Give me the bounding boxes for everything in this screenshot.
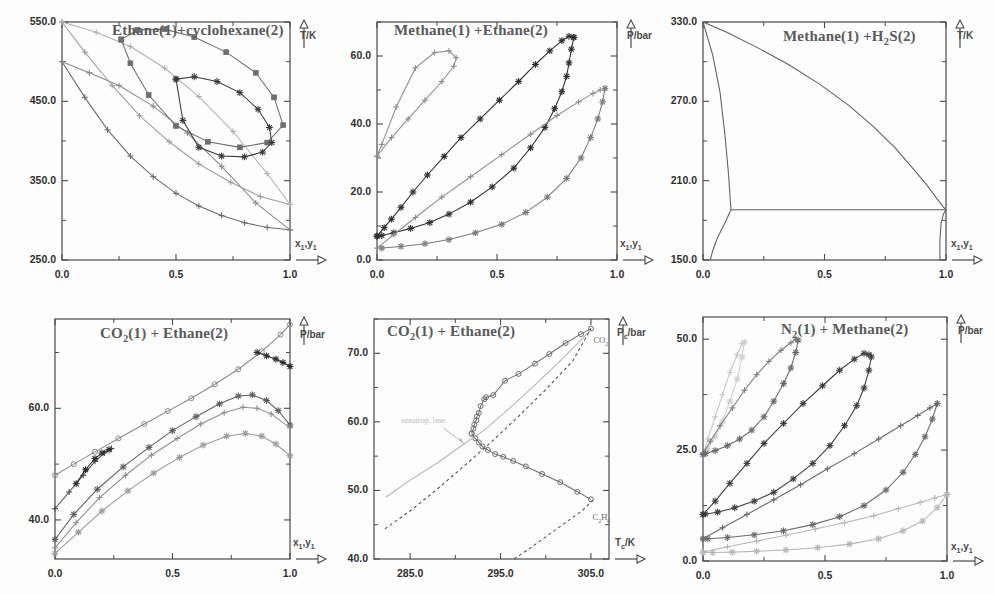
chart-panel-6: N2(1) + Methane(2)P/barx1,y10.025.050.00…: [663, 297, 995, 594]
series-path: [386, 330, 591, 497]
y-tick-label: 350.0: [4, 174, 56, 186]
co2-point-label: CO2: [593, 335, 608, 347]
series-path: [377, 90, 600, 248]
x-tick-label: 0.5: [469, 268, 525, 280]
x-axis-label: x1,y1: [293, 537, 315, 550]
chart-panel-2: Methane(1) +Ethane(2)P/barx1,y10.020.040…: [332, 0, 664, 297]
y-tick-label: 60.0: [316, 415, 368, 427]
y-tick-label: 450.0: [4, 94, 56, 106]
x-axis-label: Tc/K: [615, 537, 635, 550]
series-path: [55, 433, 290, 553]
panel-title: Ethane(1)+cyclohexane(2): [112, 22, 284, 39]
x-axis-label: x1,y1: [951, 238, 973, 251]
y-axis-label: T/K: [957, 30, 973, 41]
plot-area-2: [332, 0, 664, 297]
y-axis-label: P/bar: [300, 329, 325, 340]
series-path: [703, 494, 947, 552]
series-path: [377, 51, 456, 156]
y-tick-label: 40.0: [319, 117, 371, 129]
y-tick-label: 40.0: [0, 513, 49, 525]
series-path: [703, 357, 871, 514]
y-tick-label: 40.0: [316, 552, 368, 564]
y-tick-label: 150.0: [645, 253, 697, 265]
x-tick-label: 0.0: [34, 268, 90, 280]
series-path: [703, 22, 731, 210]
ethane-point-label: C2H6: [593, 512, 611, 524]
series-path: [121, 29, 283, 147]
y-axis-label: P/bar: [627, 30, 652, 41]
series-path: [55, 325, 290, 476]
y-tick-label: 0.0: [645, 554, 697, 566]
y-tick-label: 50.0: [645, 332, 697, 344]
x-tick-label: 295.0: [473, 567, 529, 579]
y-tick-label: 250.0: [4, 253, 56, 265]
panel-title: Methane(1) +Ethane(2): [394, 22, 548, 39]
x-axis-label: x1,y1: [620, 238, 642, 251]
x-tick-label: 0.0: [349, 268, 405, 280]
x-tick-label: 0.5: [797, 268, 853, 280]
series-path: [940, 210, 946, 260]
y-tick-label: 330.0: [645, 15, 697, 27]
x-axis-label: x1,y1: [951, 541, 973, 554]
x-tick-label: 0.5: [148, 268, 204, 280]
x-tick-label: 0.0: [675, 569, 731, 581]
figure-container: Ethane(1)+cyclohexane(2)T/Kx1,y1250.0350…: [0, 0, 995, 594]
series-path: [703, 22, 946, 210]
panel-title: CO2(1) + Ethane(2): [387, 323, 515, 342]
series-path: [472, 329, 591, 434]
x-tick-label: 0.0: [27, 567, 83, 579]
x-tick-label: 1.0: [262, 268, 318, 280]
x-tick-label: 0.5: [797, 569, 853, 581]
x-tick-label: 1.0: [262, 567, 318, 579]
x-tick-label: 0.5: [145, 567, 201, 579]
x-tick-label: 1.0: [918, 268, 974, 280]
series-path: [703, 494, 947, 552]
y-tick-label: 210.0: [645, 174, 697, 186]
panel-title: CO2(1) + Ethane(2): [100, 325, 228, 344]
series-path: [382, 88, 605, 248]
series-path: [377, 37, 574, 236]
series-path: [55, 448, 111, 508]
y-tick-label: 270.0: [645, 94, 697, 106]
x-tick-label: 305.0: [563, 567, 619, 579]
y-axis-label: T/K: [300, 30, 316, 41]
x-tick-label: 285.0: [382, 567, 438, 579]
y-tick-label: 550.0: [4, 15, 56, 27]
series-path: [377, 36, 574, 236]
series-path: [385, 329, 591, 529]
chart-panel-5: CO2(1) + Ethane(2)Pc/barTc/K40.050.060.0…: [332, 297, 664, 594]
series-path: [703, 340, 798, 454]
y-tick-label: 0.0: [319, 253, 371, 265]
chart-panel-1: Ethane(1)+cyclohexane(2)T/Kx1,y1250.0350…: [0, 0, 332, 297]
panel-title: Methane(1) +H2S(2): [783, 28, 916, 47]
chart-panel-4: CO2(1) + Ethane(2)P/barx1,y140.060.00.00…: [0, 297, 332, 594]
y-tick-label: 50.0: [316, 483, 368, 495]
y-tick-label: 60.0: [319, 49, 371, 61]
x-axis-label: x1,y1: [295, 238, 317, 251]
y-axis-label: Pc/bar: [617, 327, 646, 340]
y-axis-label: P/bar: [958, 325, 983, 336]
azeotrope-annotation: azeotrop. line: [401, 416, 445, 425]
series-path: [514, 500, 593, 559]
y-tick-label: 70.0: [316, 346, 368, 358]
y-tick-label: 60.0: [0, 401, 49, 413]
series-path: [710, 210, 731, 260]
x-tick-label: 1.0: [919, 569, 975, 581]
panel-title: N2(1) + Methane(2): [781, 321, 908, 340]
series-path: [472, 434, 591, 500]
x-tick-label: 1.0: [589, 268, 645, 280]
y-tick-label: 20.0: [319, 185, 371, 197]
series-path: [703, 344, 742, 455]
chart-panel-3: Methane(1) +H2S(2)T/Kx1,y1150.0210.0270.…: [663, 0, 995, 297]
plot-area-6: [663, 297, 995, 594]
y-tick-label: 25.0: [645, 443, 697, 455]
x-tick-label: 0.0: [675, 268, 731, 280]
